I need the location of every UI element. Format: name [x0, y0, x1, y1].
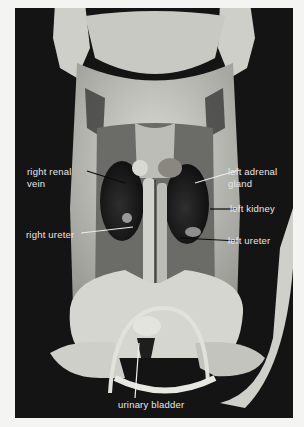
label-line: gland: [228, 178, 277, 190]
label-right-ureter: right ureter: [26, 229, 74, 241]
label-line: right renal: [27, 166, 71, 178]
label-line: left adrenal: [228, 166, 277, 178]
specimen-photograph: right renal vein left adrenal gland left…: [15, 8, 293, 418]
label-left-adrenal-gland: left adrenal gland: [228, 166, 277, 190]
label-left-ureter: left ureter: [228, 235, 270, 247]
label-urinary-bladder: urinary bladder: [118, 399, 184, 411]
label-line: vein: [27, 178, 71, 190]
label-right-renal-vein: right renal vein: [27, 166, 71, 190]
label-left-kidney: left kidney: [230, 203, 275, 215]
